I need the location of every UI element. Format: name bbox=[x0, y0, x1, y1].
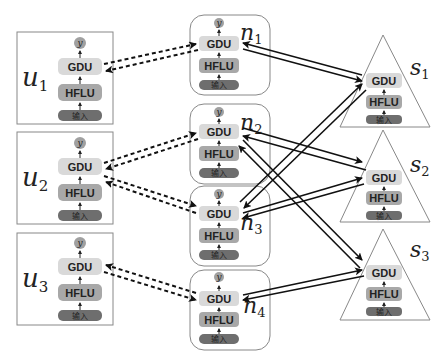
input-label: 输入 bbox=[211, 80, 227, 90]
gdu-label: GDU bbox=[372, 267, 397, 279]
input-label: 输入 bbox=[211, 250, 227, 260]
user-u3: u3 y GDU HFLU 输入 bbox=[17, 233, 113, 325]
hflu-label: HFLU bbox=[204, 230, 233, 242]
hflu-label: HFLU bbox=[369, 192, 398, 204]
gdu-label: GDU bbox=[207, 293, 232, 305]
edge-n3-u2 bbox=[106, 182, 196, 213]
node-n2: n2 y GDU HFLU 输入 bbox=[190, 104, 270, 184]
input-label: 输入 bbox=[72, 311, 88, 321]
hflu-label: HFLU bbox=[65, 187, 94, 199]
gdu-label: GDU bbox=[68, 161, 93, 173]
gdu-label: GDU bbox=[207, 38, 232, 50]
hflu-label: HFLU bbox=[204, 314, 233, 326]
hflu-label: HFLU bbox=[204, 148, 233, 160]
server-s1-label: s1 bbox=[410, 55, 430, 82]
gdu-label: GDU bbox=[68, 261, 93, 273]
gdu-label: GDU bbox=[207, 208, 232, 220]
dashed-edges bbox=[104, 44, 198, 300]
server-s2: s2 GDU HFLU 输入 bbox=[340, 130, 430, 222]
gdu-label: GDU bbox=[207, 126, 232, 138]
output-label: y bbox=[215, 18, 222, 28]
input-label: 输入 bbox=[211, 168, 227, 178]
gdu-label: GDU bbox=[372, 172, 397, 184]
node-n4: n4 y GDU HFLU 输入 bbox=[190, 270, 270, 350]
input-label: 输入 bbox=[72, 211, 88, 221]
user-u1: u1 y GDU HFLU 输入 bbox=[17, 32, 113, 124]
output-label: y bbox=[76, 38, 83, 48]
input-label: 输入 bbox=[376, 115, 392, 125]
hflu-label: HFLU bbox=[65, 287, 94, 299]
output-label: y bbox=[76, 138, 83, 148]
output-label: y bbox=[215, 107, 222, 117]
edge-u2-n2 bbox=[104, 133, 196, 163]
output-label: y bbox=[76, 238, 83, 248]
input-label: 输入 bbox=[376, 211, 392, 221]
node-n3: n3 y GDU HFLU 输入 bbox=[190, 186, 270, 266]
edge-n2-u2 bbox=[106, 139, 198, 169]
edge-u2-n3 bbox=[104, 176, 196, 206]
user-u2: u2 y GDU HFLU 输入 bbox=[17, 132, 113, 224]
hflu-label: HFLU bbox=[65, 87, 94, 99]
node-n1: n1 y GDU HFLU 输入 bbox=[190, 15, 270, 95]
edge-n4-u3 bbox=[106, 265, 196, 293]
gdu-label: GDU bbox=[372, 75, 397, 87]
input-label: 输入 bbox=[211, 334, 227, 344]
hflu-label: HFLU bbox=[369, 96, 398, 108]
input-label: 输入 bbox=[376, 307, 392, 317]
server-s3-label: s3 bbox=[410, 237, 430, 264]
input-label: 输入 bbox=[72, 111, 88, 121]
output-label: y bbox=[215, 189, 222, 199]
diagram-canvas: u1 y GDU HFLU 输入 u2 y GDU HFLU 输入 u3 y G… bbox=[0, 0, 441, 356]
server-s3: s3 GDU HFLU 输入 bbox=[340, 229, 430, 320]
gdu-label: GDU bbox=[68, 61, 93, 73]
output-label: y bbox=[215, 272, 222, 282]
server-s1: s1 GDU HFLU 输入 bbox=[340, 35, 430, 127]
hflu-label: HFLU bbox=[204, 60, 233, 72]
edge-u3-n4 bbox=[104, 272, 196, 300]
hflu-label: HFLU bbox=[369, 288, 398, 300]
server-s2-label: s2 bbox=[410, 152, 430, 179]
